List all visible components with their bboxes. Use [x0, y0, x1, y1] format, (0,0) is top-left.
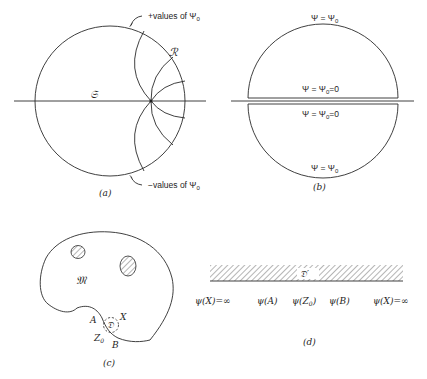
label-region-d-prime: 𝔇′ [300, 269, 309, 279]
leader-top [131, 16, 142, 25]
hole-large [120, 256, 136, 276]
focal-point [149, 99, 152, 102]
arrowhead-bottom-icon [129, 175, 133, 179]
label-right-infinity: ψ(X)=∞ [373, 296, 409, 306]
label-psi-a: ψ(A) [257, 296, 278, 306]
label-b-mid-upper: Ψ = Ψ0=0 [302, 84, 339, 95]
panel-b: Ψ = Ψ0 Ψ = Ψ0=0 Ψ = Ψ0=0 Ψ = Ψ0 (b) [231, 13, 414, 192]
figure-canvas: +values of Ψ0 −values of Ψ0 ℛ 𝔖 (a) Ψ = … [0, 0, 427, 379]
caption-a: (a) [99, 188, 112, 198]
label-point-b: B [111, 340, 119, 350]
panel-c: 𝔐 𝔇 A X Z0 B (c) [40, 232, 173, 368]
label-b-top: Ψ = Ψ0 [311, 13, 339, 24]
label-b-bottom: Ψ = Ψ0 [311, 163, 339, 174]
label-b-mid-lower: Ψ = Ψ0=0 [302, 109, 339, 120]
hole-small [71, 246, 85, 259]
label-line-s: 𝔖 [90, 88, 100, 101]
caption-b: (b) [313, 182, 326, 192]
leader-bottom [131, 177, 142, 185]
panel-d: 𝔇′ ψ(X)=∞ ψ(A) ψ(Z0) ψ(B) ψ(X)=∞ (d) [195, 265, 409, 347]
label-psi-z0: ψ(Z0) [292, 296, 317, 307]
label-plus-values: +values of Ψ0 [148, 11, 200, 22]
label-point-x: X [119, 312, 127, 322]
label-point-a: A [89, 315, 97, 325]
label-psi-b: ψ(B) [329, 296, 350, 306]
label-region-d: 𝔇 [107, 320, 115, 330]
label-region-r: ℛ [169, 46, 179, 59]
label-region-m: 𝔐 [76, 274, 88, 287]
caption-d: (d) [303, 337, 316, 347]
panel-a: +values of Ψ0 −values of Ψ0 ℛ 𝔖 (a) [14, 11, 206, 198]
label-point-z0: Z0 [93, 333, 104, 344]
caption-c: (c) [103, 358, 116, 368]
label-left-infinity: ψ(X)=∞ [195, 296, 231, 306]
label-minus-values: −values of Ψ0 [148, 180, 200, 191]
